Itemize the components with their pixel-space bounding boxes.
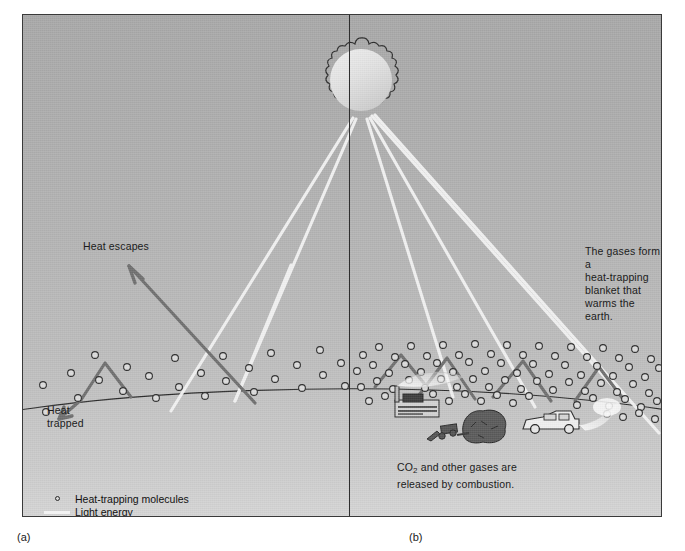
- greenhouse-effect-scene: [23, 15, 662, 517]
- factory-smoke-plume: [397, 372, 463, 387]
- heat-escape-arrow-path: [129, 266, 255, 403]
- co2-text: CO: [397, 461, 413, 473]
- panel-divider: [349, 15, 350, 516]
- caption-panel-b: (b): [409, 531, 422, 543]
- legend-label-light-energy: Light energy: [75, 506, 133, 517]
- figure-root: Heat escapes Heat trapped The gases form…: [0, 0, 685, 551]
- illustration-frame: Heat escapes Heat trapped The gases form…: [22, 14, 662, 517]
- legend-label-molecules: Heat-trapping molecules: [75, 493, 189, 505]
- legend-item-molecules: Heat-trapping molecules: [42, 492, 189, 506]
- label-gases-blanket: The gases form a heat-trapping blanket t…: [585, 245, 661, 323]
- legend: Heat-trapping molecules Light energy Hea…: [42, 492, 189, 517]
- label-heat-escapes: Heat escapes: [83, 240, 149, 253]
- legend-item-light-energy: Light energy: [42, 506, 189, 518]
- sun: [326, 38, 399, 111]
- label-co2-combustion: CO2 and other gases are released by comb…: [397, 461, 517, 491]
- caption-panel-a: (a): [17, 531, 30, 543]
- scene-svg-wrapper: [23, 15, 661, 516]
- label-heat-trapped: Heat trapped: [47, 404, 84, 430]
- molecule-circle-icon: [42, 496, 72, 501]
- light-line-icon: [42, 511, 72, 514]
- sun-disc: [330, 49, 392, 111]
